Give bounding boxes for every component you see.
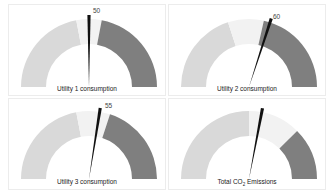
gauge-needle (87, 15, 90, 87)
gauge-panel-utility-3: 55 Utility 3 consumption (8, 98, 166, 190)
gauge-title: Utility 1 consumption (9, 85, 165, 92)
gauge-utility-1 (9, 5, 167, 97)
gauge-utility-2 (169, 5, 327, 97)
gauge-panel-total-co2: Total CO2 Emissions (168, 98, 326, 190)
gauge-value-label: 55 (105, 102, 112, 109)
gauge-value-label: 60 (273, 13, 280, 20)
gauge-panel-utility-1: 50 Utility 1 consumption (8, 4, 166, 96)
gauge-title: Utility 3 consumption (9, 178, 165, 185)
gauge-value-label: 50 (93, 7, 100, 14)
gauge-title: Total CO2 Emissions (169, 178, 325, 187)
gauge-band (102, 114, 157, 179)
gauge-panel-utility-2: 60 Utility 2 consumption (168, 4, 326, 96)
gauge-band (21, 20, 81, 87)
gauge-band (181, 111, 249, 179)
gauge-title: Utility 2 consumption (169, 85, 325, 92)
gauge-band (97, 20, 157, 87)
gauge-band (21, 112, 81, 179)
gauge-band (181, 22, 236, 87)
